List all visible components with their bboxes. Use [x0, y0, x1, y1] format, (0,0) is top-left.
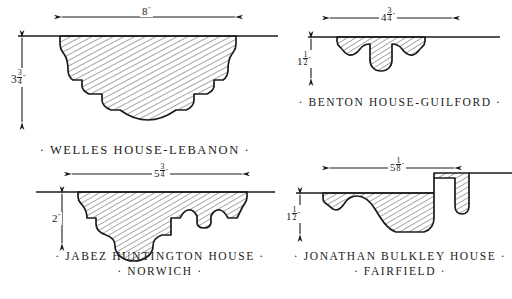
profile-outline-welles — [60, 36, 236, 120]
caption-line: · NORWICH · — [20, 265, 300, 277]
caption-welles-house-lebanon: · WELLES HOUSE-LEBANON · — [0, 144, 290, 157]
inch-mark: ″ — [392, 11, 395, 18]
inch-mark: ″ — [401, 161, 404, 168]
caption-jabez-huntington-house-norwich: · JABEZ HUNTINGTON HOUSE · · NORWICH · — [20, 250, 300, 277]
profile-outline-bulkley — [323, 173, 469, 232]
inch-mark: ″ — [23, 73, 26, 81]
profile-outline-benton — [337, 37, 425, 71]
caption-line: · BENTON HOUSE-GUILFORD · — [288, 96, 512, 108]
inch-mark: ″ — [308, 55, 311, 62]
caption-benton-house-guilford: · BENTON HOUSE-GUILFORD · — [288, 96, 512, 108]
caption-line: · WELLES HOUSE-LEBANON · — [0, 144, 290, 157]
dimension-label-height-benton: 112″ — [296, 50, 312, 68]
dimension-label-height-huntington: 2″ — [51, 212, 62, 225]
caption-line: · FAIRFIELD · — [288, 265, 512, 277]
figure-jabez-huntington-house-norwich — [36, 174, 275, 261]
dimension-label-width-huntington: 534″ — [152, 163, 170, 179]
caption-jonathan-bulkley-house-fairfield: · JONATHAN BULKLEY HOUSE · · FAIRFIELD · — [288, 250, 512, 277]
molding-profile-plate: 8″ 334″ · WELLES HOUSE-LEBANON · 434″ 11… — [0, 0, 512, 299]
dimension-label-width-bulkley: 518″ — [388, 157, 406, 173]
inch-mark: ″ — [148, 5, 151, 12]
figure-welles-house-lebanon — [18, 17, 278, 122]
caption-line: · JONATHAN BULKLEY HOUSE · — [288, 250, 512, 262]
figure-jonathan-bulkley-house-fairfield — [296, 168, 512, 234]
inch-mark: ″ — [297, 210, 300, 217]
dimension-label-height-bulkley: 112″ — [285, 205, 301, 223]
figure-benton-house-guilford — [308, 18, 500, 78]
dimension-label-width-benton: 434″ — [379, 7, 397, 23]
fraction-three-quarters: 34 — [17, 69, 22, 85]
inch-mark: ″ — [165, 167, 168, 174]
dimension-label-width-welles: 8″ — [140, 6, 153, 17]
caption-line: · JABEZ HUNTINGTON HOUSE · — [20, 250, 300, 262]
inch-mark: ″ — [58, 212, 61, 219]
dimension-label-height-welles: 334″ — [10, 68, 27, 87]
